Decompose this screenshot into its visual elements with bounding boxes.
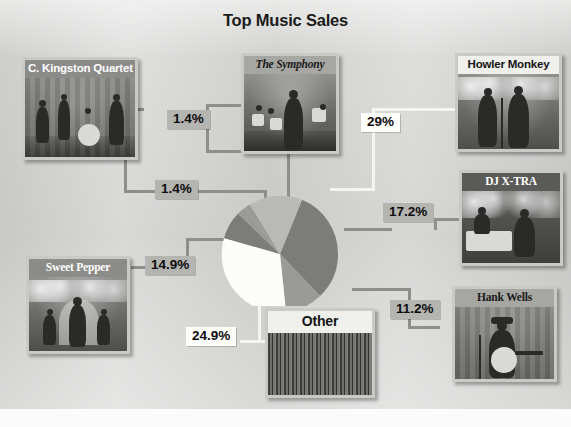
- art-player-head: [320, 104, 326, 110]
- album-art-symphony: [244, 74, 336, 151]
- art-figure-sax: [36, 107, 49, 143]
- album-card-sweet[interactable]: Sweet Pepper: [26, 256, 130, 354]
- leader-howler-to-pie: [330, 188, 375, 191]
- album-card-howler[interactable]: Howler Monkey: [455, 53, 562, 152]
- art-dancer-body: [43, 315, 56, 345]
- art-dancer-body: [514, 217, 535, 257]
- album-title-symphony: The Symphony: [244, 56, 336, 74]
- art-guitarist-body: [478, 95, 497, 147]
- callout-symphony-percent: 1.4%: [167, 110, 210, 129]
- album-art-sweet: [29, 277, 127, 351]
- art-guitar-neck: [515, 351, 543, 355]
- art-dancer-body: [97, 315, 110, 345]
- album-title-howler: Howler Monkey: [458, 56, 559, 74]
- album-art-other: [268, 333, 372, 395]
- album-title-hank: Hank Wells: [455, 289, 554, 307]
- art-music-stand: [312, 108, 326, 122]
- page-edge: [0, 409, 571, 427]
- album-art-howler: [458, 74, 559, 149]
- art-dj-body: [474, 214, 490, 234]
- album-card-symphony[interactable]: The Symphony: [241, 53, 339, 154]
- leader-djxtra-vertical: [434, 218, 437, 230]
- pie-chart: [214, 196, 344, 306]
- art-figure-bass: [58, 100, 70, 140]
- art-singer-body: [508, 94, 529, 148]
- art-mic-stand: [501, 98, 503, 148]
- chart-title: Top Music Sales: [0, 11, 571, 30]
- album-card-djxtra[interactable]: DJ X-TRA: [459, 170, 563, 266]
- album-title-other: Other: [268, 311, 372, 333]
- album-card-hank[interactable]: Hank Wells: [452, 286, 557, 382]
- art-player-head: [268, 108, 274, 114]
- art-mic-stand: [479, 335, 481, 379]
- art-figure-trumpet: [109, 101, 124, 145]
- callout-kingston-percent: 1.4%: [155, 180, 198, 199]
- art-figure-head: [85, 108, 91, 114]
- leader-symphony-vertical: [287, 150, 290, 202]
- album-art-kingston: [25, 78, 135, 157]
- album-card-kingston[interactable]: C. Kingston Quartet: [22, 57, 138, 160]
- art-figure-head: [39, 100, 46, 107]
- art-barcode-pattern: [268, 333, 372, 395]
- album-title-sweet: Sweet Pepper: [29, 259, 127, 277]
- album-art-djxtra: [462, 191, 560, 263]
- leader-djxtra-to-card: [436, 218, 460, 221]
- art-player-head: [256, 105, 262, 111]
- art-music-stand: [252, 114, 264, 126]
- leader-hank-to-card: [408, 326, 440, 329]
- leader-symphony-to-card: [206, 104, 242, 107]
- album-art-hank: [455, 307, 554, 379]
- chart-canvas: Top Music Sales: [0, 0, 571, 427]
- art-conductor-body: [284, 98, 303, 150]
- art-spotlights: [458, 77, 559, 100]
- art-lead-body: [69, 305, 86, 347]
- callout-sweet-percent: 14.9%: [145, 256, 195, 275]
- callout-hank-percent: 11.2%: [390, 300, 440, 319]
- art-guitar-body: [491, 347, 517, 373]
- art-dj-booth: [466, 231, 512, 251]
- callout-howler-percent: 29%: [361, 113, 400, 132]
- art-figure-head: [113, 94, 120, 101]
- leader-howler-horizontal: [372, 108, 458, 111]
- callout-djxtra-percent: 17.2%: [383, 203, 433, 222]
- art-music-stand: [270, 118, 282, 130]
- leader-hank-horizontal: [352, 288, 410, 291]
- album-title-djxtra: DJ X-TRA: [462, 173, 560, 191]
- pie-svg: [214, 196, 344, 306]
- leader-djxtra-horizontal: [344, 228, 392, 231]
- art-bass-drum: [78, 124, 100, 146]
- callout-other-percent: 24.9%: [186, 327, 236, 346]
- album-card-other[interactable]: Other: [265, 308, 375, 398]
- album-title-kingston: C. Kingston Quartet: [25, 60, 135, 78]
